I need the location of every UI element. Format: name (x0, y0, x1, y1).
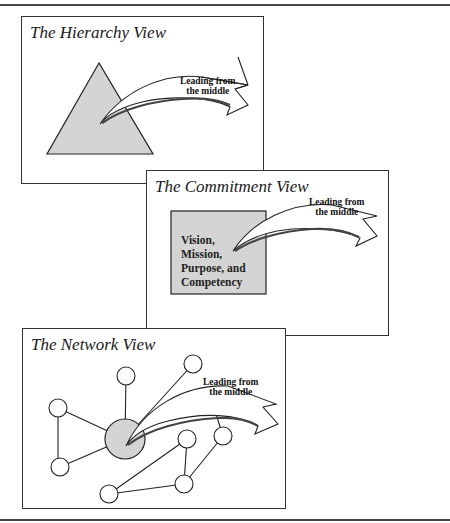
mission-line: Purpose, and (181, 261, 246, 275)
mission-line: Competency (181, 275, 246, 289)
arrow-label-line1: Leading from (309, 197, 365, 207)
hierarchy-arrow-label: Leading from the middle (180, 76, 236, 96)
network-arrow-label: Leading from the middle (203, 377, 259, 397)
commitment-view-panel: The Commitment View Vision, Mission, Pur… (146, 170, 389, 336)
mission-text: Vision, Mission, Purpose, and Competency (181, 233, 246, 289)
commitment-arrow-label: Leading from the middle (309, 197, 365, 217)
arrow-label-line2: the middle (203, 387, 259, 397)
network-diagram (23, 329, 287, 510)
mission-line: Vision, (181, 233, 246, 247)
hierarchy-triangle (47, 63, 153, 154)
arrow-label-line1: Leading from (180, 76, 236, 86)
mission-line: Mission, (181, 247, 246, 261)
bottom-rule (0, 519, 450, 521)
arrow-label-line2: the middle (309, 207, 365, 217)
hierarchy-view-panel: The Hierarchy View Leading from the midd… (21, 16, 264, 184)
arrow-label-line2: the middle (180, 86, 236, 96)
network-view-panel: The Network View (22, 328, 286, 509)
arrow-label-line1: Leading from (203, 377, 259, 387)
hierarchy-diagram (22, 17, 265, 185)
top-rule (0, 4, 450, 6)
